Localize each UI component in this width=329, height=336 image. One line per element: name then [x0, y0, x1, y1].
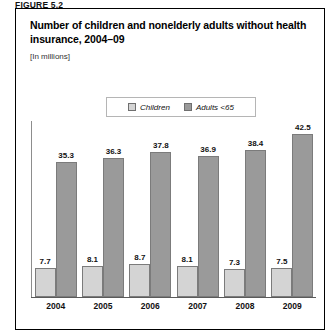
bar-group-2008: 7.3 38.4 — [221, 121, 268, 297]
x-tick-2009: 2009 — [269, 301, 316, 311]
chart-units-subtitle: [In millions] — [30, 52, 70, 61]
bar-groups: 7.7 35.3 8.1 36.3 8.7 — [32, 121, 316, 297]
bar-children-2008: 7.3 — [224, 269, 245, 297]
legend-label-children: Children — [140, 103, 170, 112]
chart-legend: Children Adults <65 — [106, 97, 256, 117]
x-tick-2008: 2008 — [221, 301, 268, 311]
bar-children-2004: 7.7 — [35, 268, 56, 297]
legend-item-children: Children — [128, 103, 170, 112]
bar-value-children-2005: 8.1 — [87, 255, 98, 264]
bar-value-adults-2007: 36.9 — [200, 145, 216, 154]
bar-value-children-2004: 7.7 — [40, 257, 51, 266]
bar-value-adults-2009: 42.5 — [295, 123, 311, 132]
bar-value-children-2006: 8.7 — [134, 253, 145, 262]
bar-adults-2007: 36.9 — [198, 156, 219, 297]
chart-plot-area: 7.7 35.3 8.1 36.3 8.7 — [24, 121, 316, 297]
bar-adults-2005: 36.3 — [103, 158, 124, 297]
legend-swatch-children-icon — [128, 103, 136, 111]
bar-value-adults-2008: 38.4 — [248, 139, 264, 148]
bar-adults-2009: 42.5 — [292, 134, 313, 297]
x-axis-line — [31, 297, 316, 298]
x-axis-labels: 2004 2005 2006 2007 2008 2009 — [32, 301, 316, 311]
bar-group-2007: 8.1 36.9 — [174, 121, 221, 297]
figure-caption: FIGURE 5.2 — [15, 0, 63, 8]
bar-group-2006: 8.7 37.8 — [127, 121, 174, 297]
figure-page: FIGURE 5.2 Number of children and noneld… — [0, 0, 329, 336]
legend-item-adults: Adults <65 — [184, 103, 234, 112]
bar-value-children-2008: 7.3 — [229, 258, 240, 267]
x-tick-2005: 2005 — [79, 301, 126, 311]
bar-children-2009: 7.5 — [271, 268, 292, 297]
x-tick-2004: 2004 — [32, 301, 79, 311]
bar-children-2007: 8.1 — [177, 266, 198, 297]
figure-border-box: Number of children and nonelderly adults… — [15, 8, 325, 330]
bar-group-2005: 8.1 36.3 — [79, 121, 126, 297]
bar-adults-2004: 35.3 — [56, 162, 77, 297]
bar-group-2004: 7.7 35.3 — [32, 121, 79, 297]
bar-children-2005: 8.1 — [82, 266, 103, 297]
x-tick-2006: 2006 — [127, 301, 174, 311]
legend-swatch-adults-icon — [184, 103, 192, 111]
chart-title: Number of children and nonelderly adults… — [30, 19, 308, 46]
bar-adults-2006: 37.8 — [150, 152, 171, 297]
legend-label-adults: Adults <65 — [196, 103, 234, 112]
bar-children-2006: 8.7 — [129, 264, 150, 297]
bar-value-adults-2006: 37.8 — [153, 141, 169, 150]
x-tick-2007: 2007 — [174, 301, 221, 311]
bar-value-adults-2004: 35.3 — [58, 151, 74, 160]
bar-adults-2008: 38.4 — [245, 150, 266, 297]
bar-value-children-2007: 8.1 — [182, 255, 193, 264]
bar-group-2009: 7.5 42.5 — [269, 121, 316, 297]
bar-value-children-2009: 7.5 — [276, 257, 287, 266]
bar-value-adults-2005: 36.3 — [106, 147, 122, 156]
